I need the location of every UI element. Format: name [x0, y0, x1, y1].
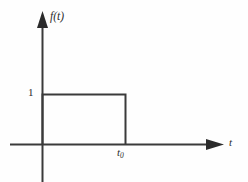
x-tick-label-t0-subscript: 0 — [120, 151, 124, 160]
plot-canvas — [0, 0, 248, 182]
rectangular-pulse-figure: f(t) t 1 t0 — [0, 0, 248, 182]
x-axis-label: t — [229, 137, 232, 148]
x-axis-arrowhead — [206, 139, 224, 150]
y-axis-label: f(t) — [50, 11, 64, 23]
y-tick-label-one: 1 — [28, 87, 34, 98]
y-axis-arrowhead — [37, 11, 48, 28]
pulse-waveform — [43, 95, 126, 145]
x-tick-label-t0: t0 — [117, 147, 124, 159]
